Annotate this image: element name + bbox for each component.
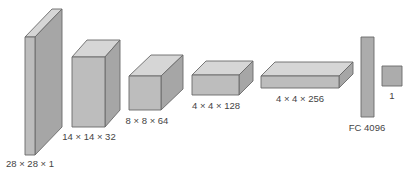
block-front-face <box>261 76 339 88</box>
layer-block-conv3 <box>192 61 253 95</box>
layer-label-conv2: 8 × 8 × 64 <box>126 116 169 126</box>
block-front-face <box>129 76 161 110</box>
block-front-face <box>192 75 239 95</box>
layer-label-conv3: 4 × 4 × 128 <box>192 101 240 111</box>
layer-label-output: 1 <box>389 91 394 101</box>
block-front-face <box>25 37 35 155</box>
layer-label-fc: FC 4096 <box>349 123 385 133</box>
layer-label-input: 28 × 28 × 1 <box>6 159 54 169</box>
cnn-diagram-canvas <box>0 0 412 175</box>
layer-block-output <box>382 66 402 86</box>
block-rect <box>361 37 374 117</box>
layer-block-input <box>25 9 62 155</box>
block-rect <box>382 66 402 86</box>
block-front-face <box>72 57 105 127</box>
layer-block-conv1 <box>72 40 120 127</box>
layer-block-conv2 <box>129 55 183 110</box>
layer-label-conv1: 14 × 14 × 32 <box>62 132 115 142</box>
layer-block-conv4 <box>261 62 353 88</box>
block-top-face <box>261 62 353 76</box>
layer-block-fc <box>361 37 374 117</box>
layer-label-conv4: 4 × 4 × 256 <box>276 94 324 104</box>
